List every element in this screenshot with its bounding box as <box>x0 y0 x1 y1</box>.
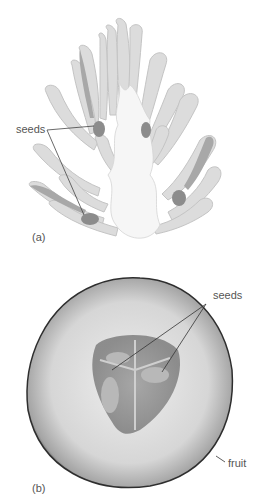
fruit-label: fruit <box>228 458 246 469</box>
seeds-label-b: seeds <box>213 290 242 301</box>
panel-letter-b: (b) <box>32 482 45 494</box>
panel-a-cone-section: seeds (a) <box>0 0 265 250</box>
seeds-label-a: seeds <box>16 124 45 135</box>
panel-letter-a: (a) <box>32 231 45 243</box>
fruit-cross-section-photo <box>0 250 265 497</box>
panel-b-fruit-section: seeds fruit (b) <box>0 250 265 497</box>
